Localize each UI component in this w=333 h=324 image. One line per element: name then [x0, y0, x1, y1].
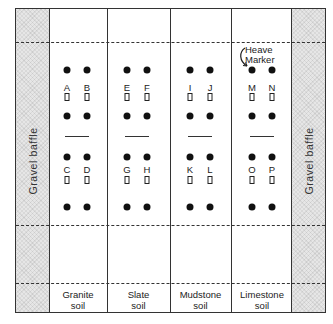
soil-label-line1: Mudstone — [170, 289, 231, 300]
plot-box-d — [85, 176, 90, 184]
heave-marker-dot — [124, 113, 131, 120]
plot-label-a: A — [64, 82, 70, 93]
plot-label-i: I — [189, 82, 192, 93]
heave-marker-dot — [269, 154, 276, 161]
heave-marker-dot — [64, 204, 71, 211]
heave-marker-dot — [187, 113, 194, 120]
plot-label-k: K — [187, 164, 193, 175]
soil-label-line1: Slate — [107, 289, 170, 300]
gravel-baffle-left-label: Gravel baffle — [27, 127, 39, 194]
plot-label-c: C — [64, 164, 71, 175]
gravel-baffle-left: Gravel baffle — [16, 9, 50, 312]
plot-label-n: N — [269, 82, 276, 93]
heave-marker-dot — [84, 154, 91, 161]
heave-marker-dot — [64, 113, 71, 120]
soil-label-line2: soil — [170, 300, 231, 311]
heave-marker-dot — [124, 154, 131, 161]
heave-marker-dot — [249, 67, 256, 74]
plot-label-h: H — [144, 164, 151, 175]
heave-marker-dot — [249, 154, 256, 161]
column-granite-soil: A B C D Granite soil — [49, 9, 107, 312]
heave-marker-dot — [207, 204, 214, 211]
heave-marker-dot — [269, 67, 276, 74]
soil-label-limestone: Limestone soil — [231, 289, 293, 311]
plot-box-l — [208, 176, 213, 184]
heave-marker-dot — [144, 204, 151, 211]
separator-bar — [188, 136, 212, 137]
heave-marker-dot — [124, 67, 131, 74]
heave-marker-dot — [187, 204, 194, 211]
heave-marker-dot — [249, 204, 256, 211]
plot-box-g — [125, 176, 130, 184]
heave-marker-dot — [187, 67, 194, 74]
plot-label-e: E — [124, 82, 130, 93]
heave-marker-dot — [249, 113, 256, 120]
heave-marker-dot — [207, 154, 214, 161]
plot-box-b — [85, 93, 90, 101]
column-limestone-soil: Heave Marker M N O P Limestone soil — [231, 9, 293, 312]
heave-marker-dot — [207, 113, 214, 120]
plot-label-m: M — [248, 82, 256, 93]
soil-label-slate: Slate soil — [107, 289, 170, 311]
heave-marker-dot — [64, 154, 71, 161]
heave-marker-dot — [124, 204, 131, 211]
column-slate-soil: E F G H Slate soil — [107, 9, 170, 312]
gravel-baffle-right-label: Gravel baffle — [303, 127, 315, 194]
plot-label-g: G — [123, 164, 130, 175]
plot-box-h — [145, 176, 150, 184]
column-mudstone-soil: I J K L Mudstone soil — [170, 9, 231, 312]
plot-box-n — [270, 93, 275, 101]
plot-label-l: L — [207, 164, 212, 175]
heave-marker-dot — [269, 204, 276, 211]
plot-box-m — [250, 93, 255, 101]
heave-marker-dot — [64, 67, 71, 74]
soil-label-line1: Granite — [49, 289, 107, 300]
heave-marker-dot — [269, 113, 276, 120]
gravel-baffle-right: Gravel baffle — [291, 9, 325, 312]
plot-label-f: F — [144, 82, 150, 93]
soil-label-mudstone: Mudstone soil — [170, 289, 231, 311]
plot-label-o: O — [248, 164, 255, 175]
experimental-layout-frame: Gravel baffle Gravel baffle A B C D Gran… — [15, 8, 326, 313]
soil-label-line2: soil — [107, 300, 170, 311]
heave-marker-dot — [144, 154, 151, 161]
separator-bar — [125, 136, 149, 137]
separator-bar — [250, 136, 274, 137]
plot-box-e — [125, 93, 130, 101]
plot-box-a — [65, 93, 70, 101]
heave-marker-dot — [207, 67, 214, 74]
separator-bar — [65, 136, 89, 137]
plot-box-c — [65, 176, 70, 184]
soil-label-line1: Limestone — [231, 289, 293, 300]
plot-box-j — [208, 93, 213, 101]
heave-marker-dot — [144, 67, 151, 74]
heave-marker-dot — [144, 113, 151, 120]
soil-label-line2: soil — [231, 300, 293, 311]
soil-label-granite: Granite soil — [49, 289, 107, 311]
plot-label-d: D — [84, 164, 91, 175]
heave-marker-dot — [84, 113, 91, 120]
plot-box-o — [250, 176, 255, 184]
soil-label-line2: soil — [49, 300, 107, 311]
heave-marker-dot — [187, 154, 194, 161]
plot-label-b: B — [84, 82, 90, 93]
plot-box-f — [145, 93, 150, 101]
heave-marker-dot — [84, 67, 91, 74]
plot-box-i — [188, 93, 193, 101]
plot-label-j: J — [208, 82, 213, 93]
plot-label-p: P — [269, 164, 275, 175]
plot-box-k — [188, 176, 193, 184]
plot-box-p — [270, 176, 275, 184]
heave-marker-dot — [84, 204, 91, 211]
